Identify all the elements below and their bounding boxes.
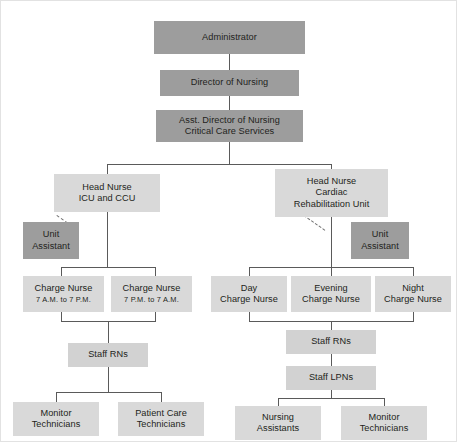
connector-bus-to-head-nurse-icu (107, 164, 108, 174)
connector-day-charge-down (249, 312, 250, 321)
connector-administrator-to-director (229, 54, 230, 70)
node-unit-assistant-right-line1: Unit (353, 229, 407, 241)
node-director-of-nursing[interactable]: Director of Nursing (160, 70, 299, 96)
node-charge-nurse-night-hours: 7 P.M. to 7 A.M. (113, 294, 190, 306)
connector-to-evening-charge (331, 267, 332, 276)
org-chart: Administrator Director of Nursing Asst. … (0, 0, 457, 442)
connector-to-monitor-tech-right (384, 398, 385, 406)
connector-staff-rns-left-stem (108, 367, 109, 392)
connector-night-charge-down (413, 312, 414, 321)
node-staff-rns-left[interactable]: Staff RNs (68, 343, 148, 367)
connector-icu-charge-bus (61, 267, 155, 268)
node-asst-director-of-nursing[interactable]: Asst. Director of Nursing Critical Care … (156, 110, 303, 142)
node-night-charge-line2: Charge Nurse (377, 294, 449, 306)
node-head-nurse-icu-line1: Head Nurse (56, 182, 158, 194)
node-patient-care-tech-line2: Technicians (120, 419, 202, 431)
node-asst-director-line1: Asst. Director of Nursing (158, 115, 301, 127)
node-head-nurse-icu-line2: ICU and CCU (56, 193, 158, 205)
node-day-charge-line1: Day (213, 283, 285, 295)
node-monitor-technicians-left[interactable]: Monitor Technicians (13, 402, 99, 436)
node-head-nurse-cardiac-line3: Rehabilitation Unit (277, 199, 386, 211)
connector-cardiac-stem (331, 217, 332, 267)
node-head-nurse-cardiac-line1: Head Nurse (277, 176, 386, 188)
connector-staff-rns-to-lpns (331, 354, 332, 366)
node-unit-assistant-right-line2: Assistant (353, 241, 407, 253)
connector-to-nursing-assistants (278, 398, 279, 406)
node-unit-assistant-right[interactable]: Unit Assistant (351, 222, 409, 259)
connector-merge-to-staff-rns-left (108, 321, 109, 343)
node-nursing-assistants[interactable]: Nursing Assistants (235, 406, 321, 440)
connector-staff-lpns-stem (331, 390, 332, 398)
node-charge-nurse-night-shift[interactable]: Charge Nurse 7 P.M. to 7 A.M. (111, 276, 192, 312)
node-charge-nurse-day-shift[interactable]: Charge Nurse 7 A.M. to 7 P.M. (23, 276, 104, 312)
node-charge-nurse-night-line1: Charge Nurse (113, 283, 190, 295)
connector-to-charge-nurse-day (61, 267, 62, 276)
node-day-charge-nurse[interactable]: Day Charge Nurse (211, 276, 287, 312)
connector-to-night-charge (413, 267, 414, 276)
connector-to-monitor-tech-left (56, 392, 57, 402)
node-monitor-technicians-right[interactable]: Monitor Technicians (341, 406, 427, 440)
node-night-charge-nurse[interactable]: Night Charge Nurse (375, 276, 451, 312)
node-staff-lpns[interactable]: Staff LPNs (286, 366, 376, 390)
connector-charge-night-down (155, 312, 156, 321)
node-administrator[interactable]: Administrator (154, 21, 305, 54)
node-nursing-assistants-line1: Nursing (237, 412, 319, 424)
connector-merge-to-staff-rns-right (331, 321, 332, 330)
node-evening-charge-nurse[interactable]: Evening Charge Nurse (291, 276, 371, 312)
node-head-nurse-icu-ccu[interactable]: Head Nurse ICU and CCU (54, 174, 160, 212)
node-head-nurse-cardiac-rehab[interactable]: Head Nurse Cardiac Rehabilitation Unit (275, 169, 388, 217)
node-monitor-tech-left-line1: Monitor (15, 408, 97, 420)
node-monitor-tech-left-line2: Technicians (15, 419, 97, 431)
connector-director-to-asst-director (229, 96, 230, 110)
connector-to-patient-care-tech (161, 392, 162, 402)
node-nursing-assistants-line2: Assistants (237, 423, 319, 435)
connector-charge-day-down (61, 312, 62, 321)
node-unit-assistant-left-line2: Assistant (25, 241, 77, 253)
connector-to-charge-nurse-night (155, 267, 156, 276)
node-asst-director-line2: Critical Care Services (158, 126, 301, 138)
node-staff-rns-right[interactable]: Staff RNs (286, 330, 376, 354)
connector-to-day-charge (249, 267, 250, 276)
connector-asst-director-stem (229, 142, 230, 164)
node-head-nurse-cardiac-line2: Cardiac (277, 187, 386, 199)
node-night-charge-line1: Night (377, 283, 449, 295)
node-staff-lpns-label: Staff LPNs (288, 372, 374, 384)
node-charge-nurse-day-line1: Charge Nurse (25, 283, 102, 295)
connector-tech-bus-left (56, 392, 161, 393)
dashed-connector-cardiac-unit-assistant (303, 215, 325, 231)
node-monitor-tech-right-line1: Monitor (343, 412, 425, 424)
node-evening-charge-line1: Evening (293, 283, 369, 295)
node-monitor-tech-right-line2: Technicians (343, 423, 425, 435)
connector-head-nurse-bus (107, 164, 331, 165)
node-staff-rns-right-label: Staff RNs (288, 336, 374, 348)
node-day-charge-line2: Charge Nurse (213, 294, 285, 306)
node-unit-assistant-left-line1: Unit (25, 229, 77, 241)
node-staff-rns-left-label: Staff RNs (70, 349, 146, 361)
node-evening-charge-line2: Charge Nurse (293, 294, 369, 306)
node-director-of-nursing-label: Director of Nursing (162, 77, 297, 89)
node-patient-care-tech-line1: Patient Care (120, 408, 202, 420)
connector-tech-bus-right (278, 398, 384, 399)
connector-icu-stem (107, 212, 108, 267)
node-charge-nurse-day-hours: 7 A.M. to 7 P.M. (25, 294, 102, 306)
node-patient-care-technicians[interactable]: Patient Care Technicians (118, 402, 204, 436)
node-administrator-label: Administrator (156, 32, 303, 44)
node-unit-assistant-left[interactable]: Unit Assistant (23, 222, 79, 259)
